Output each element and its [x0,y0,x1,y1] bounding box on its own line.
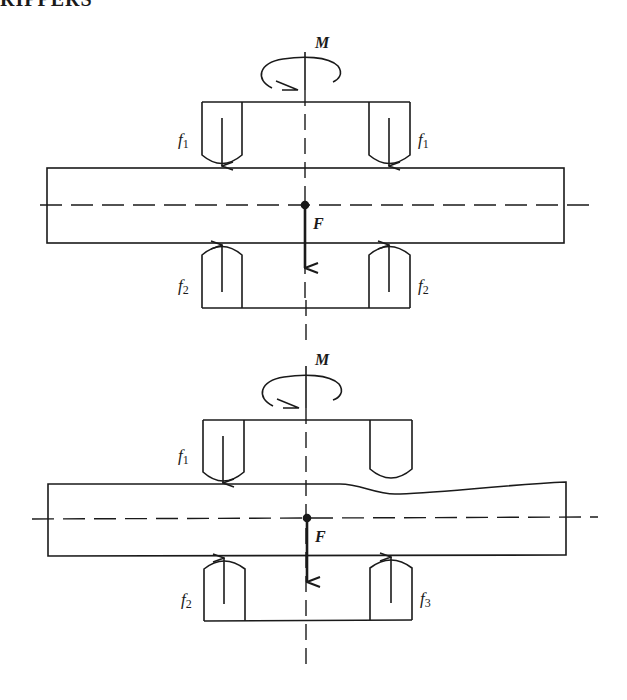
force-label: F [312,215,324,232]
force-label-f3-right: f3 [420,589,431,610]
force-label-f2-left: f2 [181,590,192,611]
upper-gripper [202,102,410,166]
moment-arrow-icon [261,57,340,90]
moment-arrow-icon [262,375,341,408]
force-label: F [314,528,326,545]
force-label-f1-left: f1 [178,446,189,467]
upper-gripper [203,420,412,483]
diagram-balanced-grip [40,52,596,308]
moment-label: M [314,351,330,368]
gripper-force-diagram: M F f1 f1 f2 f2 [0,0,627,700]
force-label-f2-left: f2 [178,276,189,297]
force-label-f1-left: f1 [178,130,189,151]
horizontal-centerline [32,517,598,519]
force-label-f1-right: f1 [418,130,429,151]
moment-label: M [314,34,330,51]
force-label-f2-right: f2 [418,276,429,297]
